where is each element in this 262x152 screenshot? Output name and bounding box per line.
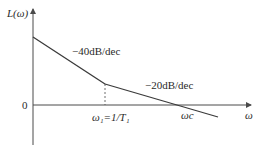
origin-label: 0 [22, 99, 28, 111]
slope-label-minus-20: −20dB/dec [145, 79, 193, 91]
crossover-label: ωc [181, 109, 194, 121]
slope-label-minus-40: −40dB/dec [72, 45, 120, 57]
breakpoint-label: ω₁=1/T₁ [92, 111, 130, 123]
bode-diagram: L(ω) 0 −40dB/dec −20dB/dec ω₁=1/T₁ ωc ω [0, 0, 262, 152]
x-axis-label: ω [245, 109, 253, 121]
y-axis-label: L(ω) [6, 7, 29, 20]
